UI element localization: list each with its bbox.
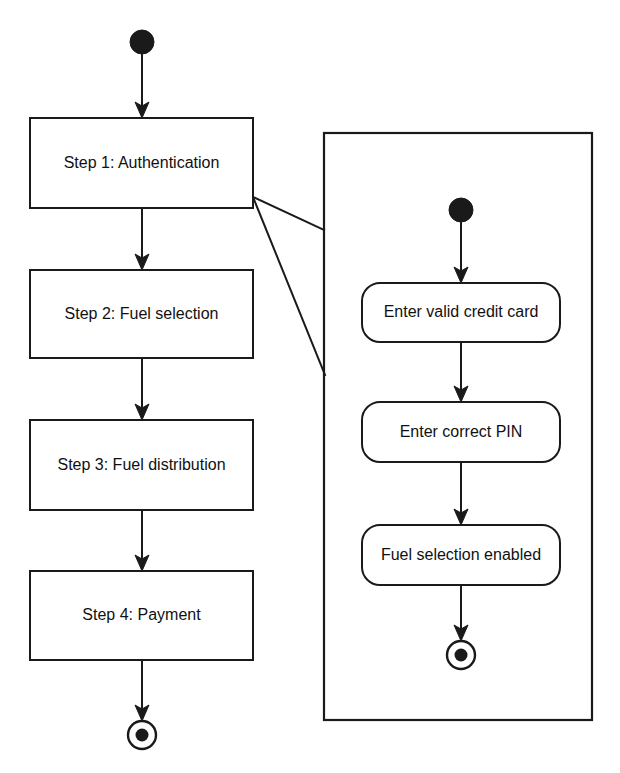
callout-wedge — [253, 197, 325, 375]
activity-enter-valid-credit-card[interactable]: Enter valid credit card — [362, 283, 560, 342]
activity-step-3[interactable]: Step 3: Fuel distribution — [30, 420, 253, 510]
activity-step-2[interactable]: Step 2: Fuel selection — [30, 270, 253, 358]
detail-final-node — [447, 641, 475, 669]
main-final-node — [128, 721, 156, 749]
transition-step2-to-step3 — [135, 358, 149, 420]
activity-fuel-selection-enabled-label: Fuel selection enabled — [381, 546, 541, 563]
activity-step-1-label: Step 1: Authentication — [64, 154, 220, 171]
activity-enter-valid-credit-card-label: Enter valid credit card — [384, 303, 539, 320]
activity-fuel-selection-enabled[interactable]: Fuel selection enabled — [362, 525, 560, 585]
activity-step-4-label: Step 4: Payment — [82, 606, 201, 623]
diagram-canvas: Step 1: Authentication Step 2: Fuel sele… — [0, 0, 620, 773]
activity-enter-correct-pin-label: Enter correct PIN — [400, 423, 523, 440]
transition-initial-to-step1 — [135, 54, 149, 118]
activity-step-2-label: Step 2: Fuel selection — [65, 305, 219, 322]
activity-diagram: Step 1: Authentication Step 2: Fuel sele… — [0, 0, 620, 773]
transition-step3-to-step4 — [135, 510, 149, 571]
transition-step1-to-step2 — [135, 208, 149, 270]
transition-step4-to-final — [135, 660, 149, 721]
detail-initial-node — [449, 198, 473, 222]
activity-step-4[interactable]: Step 4: Payment — [30, 571, 253, 660]
activity-step-1[interactable]: Step 1: Authentication — [30, 118, 253, 208]
activity-enter-correct-pin[interactable]: Enter correct PIN — [362, 402, 560, 462]
main-initial-node — [130, 30, 154, 54]
activity-step-3-label: Step 3: Fuel distribution — [57, 456, 225, 473]
